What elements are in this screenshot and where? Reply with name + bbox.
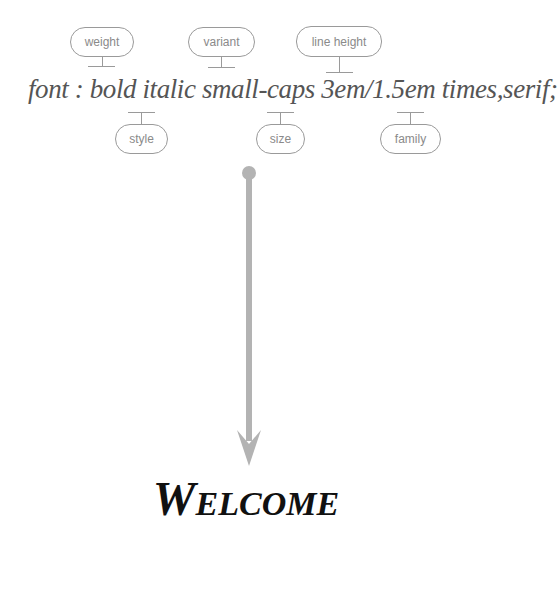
welcome-result-text: Welcome: [0, 470, 492, 528]
label-style-text: style: [129, 132, 154, 146]
connector-family-stem: [410, 112, 411, 124]
connector-line-height-stem: [339, 57, 340, 72]
label-weight: weight: [70, 27, 134, 57]
down-arrow-icon: [225, 160, 275, 472]
label-family-text: family: [395, 132, 426, 146]
label-line-height: line height: [296, 26, 382, 57]
connector-weight-bar: [88, 66, 115, 67]
label-variant-text: variant: [203, 35, 239, 49]
connector-style-stem: [141, 112, 142, 124]
connector-variant-stem: [221, 57, 222, 67]
label-size-text: size: [270, 132, 291, 146]
connector-variant-bar: [208, 67, 235, 68]
connector-size-stem: [280, 112, 281, 124]
label-weight-text: weight: [85, 35, 120, 49]
label-size: size: [256, 124, 305, 154]
label-family: family: [380, 124, 441, 154]
connector-weight-stem: [102, 57, 103, 66]
font-shorthand-syntax: font : bold italic small-caps 3em/1.5em …: [28, 74, 558, 105]
label-line-height-text: line height: [312, 35, 367, 49]
connector-line-height-bar: [326, 72, 353, 73]
label-style: style: [115, 124, 168, 154]
label-variant: variant: [188, 27, 255, 57]
